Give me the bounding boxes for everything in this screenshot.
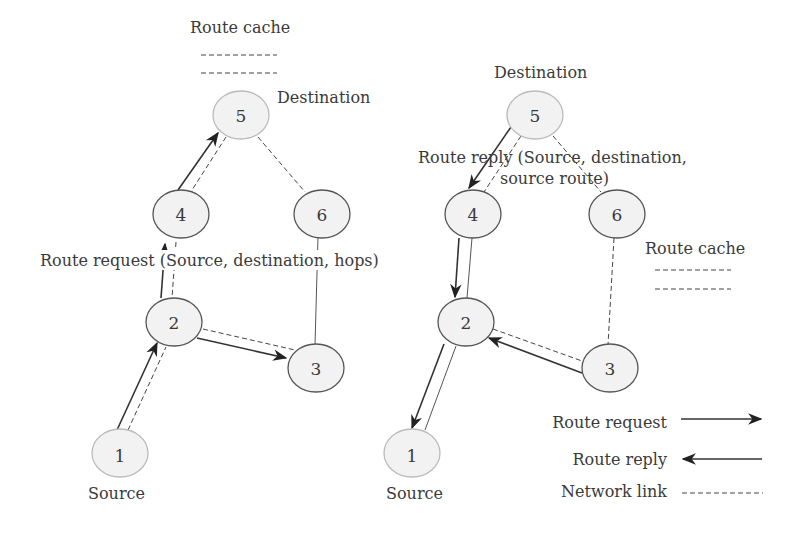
left-request-arrow-1-2 [117,343,157,430]
left-link-2-3 [203,329,295,350]
left-node-3: 3 [288,344,344,392]
legend-route-reply-label: Route reply [573,450,667,469]
left-link-5-6 [258,137,305,192]
svg-text:5: 5 [530,106,541,126]
svg-text:1: 1 [115,446,126,466]
left-destination-label: Destination [277,88,370,107]
right-panel: Destination 5 4 6 2 [384,63,745,503]
right-node-5: 5 [507,91,563,139]
right-node-6: 6 [589,190,645,238]
left-node-4: 4 [153,190,209,238]
left-node-5: 5 [213,91,269,139]
left-request-arrow-2-3 [197,338,286,358]
left-link-1-2 [128,347,166,430]
svg-text:2: 2 [461,313,472,333]
legend-route-request-label: Route request [552,413,667,432]
legend-network-link-label: Network link [561,482,667,501]
svg-text:2: 2 [169,313,180,333]
right-link-4-2 [467,238,472,298]
right-link-2-1 [425,346,456,430]
right-route-reply-label-line1: Route reply (Source, destination, [418,148,687,167]
legend: Route request Route reply Network link [552,413,763,501]
svg-text:4: 4 [468,205,479,225]
left-route-cache-label: Route cache [190,18,290,37]
right-link-6-3 [608,238,614,345]
right-reply-arrow-3-2 [489,338,582,373]
svg-text:3: 3 [605,359,616,379]
right-node-3: 3 [582,344,638,392]
svg-text:1: 1 [407,446,418,466]
dsr-route-discovery-diagram: Route cache Destination 5 4 6 2 [0,0,801,536]
svg-text:3: 3 [311,359,322,379]
left-node-6: 6 [294,190,350,238]
svg-text:4: 4 [176,205,187,225]
left-panel: Route cache Destination 5 4 6 2 [36,18,392,503]
right-route-cache-label: Route cache [645,239,745,258]
left-route-request-label: Route request (Source, destination, hops… [40,251,379,270]
left-node-2: 2 [146,298,202,346]
left-source-label: Source [88,484,145,503]
right-node-1: 1 [384,429,440,477]
right-destination-label: Destination [494,63,587,82]
svg-text:6: 6 [612,205,623,225]
right-reply-arrow-2-1 [412,344,444,428]
right-node-2: 2 [438,298,494,346]
right-route-reply-label-line2: source route) [500,169,609,188]
right-reply-arrow-4-2 [455,238,459,297]
right-node-4: 4 [445,190,501,238]
right-source-label: Source [386,484,443,503]
svg-text:6: 6 [317,205,328,225]
svg-text:5: 5 [236,106,247,126]
left-node-1: 1 [92,429,148,477]
